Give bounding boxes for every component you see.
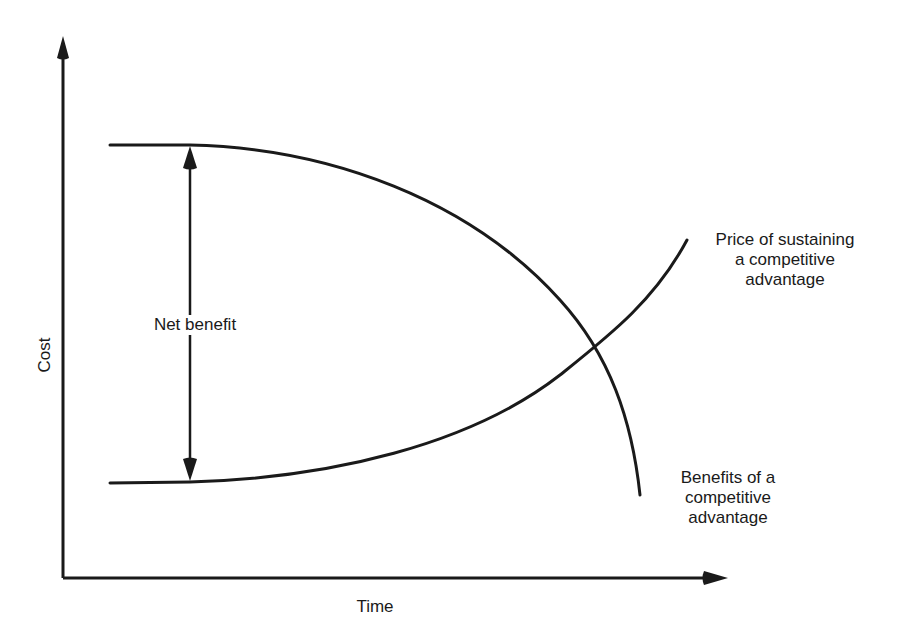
benefits-curve-label: Benefits of a competitive advantage [658,468,798,528]
benefit-label-line-2: competitive [658,488,798,508]
y-axis [57,36,69,578]
price-curve-label: Price of sustaining a competitive advant… [690,230,880,290]
price-label-line-1: Price of sustaining [690,230,880,250]
net-benefit-label: Net benefit [152,315,238,335]
arrow-down-icon [183,458,197,482]
cost-time-diagram: Cost Time Net benefit Price of sustainin… [0,0,904,635]
benefit-label-line-3: advantage [658,508,798,528]
price-label-line-3: advantage [690,270,880,290]
x-axis-label: Time [356,597,393,617]
price-curve [110,240,687,483]
benefit-label-line-1: Benefits of a [658,468,798,488]
chart-canvas [0,0,904,635]
y-axis-label: Cost [35,338,55,373]
price-label-line-2: a competitive [690,250,880,270]
x-axis [63,571,728,585]
net-benefit-arrow [183,146,197,481]
x-axis-arrowhead-icon [703,571,729,585]
y-axis-arrowhead-icon [57,36,69,60]
arrow-up-icon [183,146,197,170]
